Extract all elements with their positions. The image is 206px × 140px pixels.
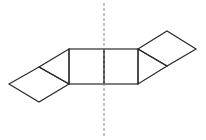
right-rhombus bbox=[138, 31, 196, 66]
center-square-left bbox=[69, 49, 104, 84]
center-square-right bbox=[104, 49, 138, 84]
left-triangle bbox=[39, 49, 69, 84]
net-diagram bbox=[0, 0, 206, 140]
left-rhombus bbox=[9, 67, 69, 102]
right-triangle bbox=[138, 49, 167, 84]
